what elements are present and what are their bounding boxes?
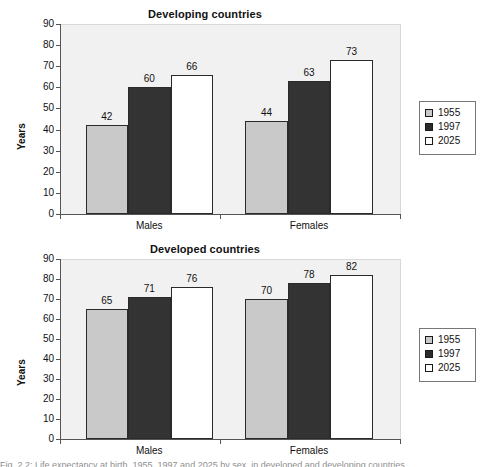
legend-row-1955: 1955: [425, 106, 469, 120]
bar-value-label: 70: [252, 286, 282, 296]
y-tick-mark: [56, 299, 60, 300]
legend-swatch-icon-2025: [425, 137, 433, 145]
bar-value-label: 71: [134, 284, 164, 294]
bar-females-1955: [245, 299, 288, 439]
legend-label: 1955: [438, 108, 460, 118]
y-tick-label: 40: [32, 355, 54, 363]
legend-label: 2025: [438, 136, 460, 146]
legend-row-2025: 2025: [425, 134, 469, 148]
bar-value-label: 60: [134, 74, 164, 84]
legend-row-1955: 1955: [425, 333, 469, 347]
legend-row-1997: 1997: [425, 347, 469, 361]
bar-males-2025: [171, 75, 214, 214]
bar-females-2025: [330, 60, 373, 214]
y-tick-label: 60: [32, 83, 54, 91]
bar-females-2025: [330, 275, 373, 439]
legend-label: 1997: [438, 122, 460, 132]
chart-title-developing: Developing countries: [0, 8, 410, 20]
y-tick-label: 0: [32, 210, 54, 218]
y-tick-mark: [56, 419, 60, 420]
y-tick-mark: [56, 399, 60, 400]
y-tick-mark: [56, 108, 60, 109]
bar-males-2025: [171, 287, 214, 439]
y-tick-label: 30: [32, 375, 54, 383]
y-tick-label: 70: [32, 62, 54, 70]
legend-label: 2025: [438, 363, 460, 373]
x-axis-tick: [400, 215, 401, 219]
chart-developed-countries: Developed countries Years 90807060504030…: [0, 238, 482, 460]
y-axis-label-developing: Years: [16, 123, 27, 150]
legend-row-1997: 1997: [425, 120, 469, 134]
y-tick-mark: [56, 87, 60, 88]
y-tick-label: 50: [32, 104, 54, 112]
y-tick-mark: [56, 130, 60, 131]
bar-females-1955: [245, 121, 288, 214]
y-tick-mark: [56, 339, 60, 340]
legend-swatch-icon-1997: [425, 123, 433, 131]
y-tick-label: 20: [32, 168, 54, 176]
y-tick-label: 90: [32, 20, 54, 28]
y-tick-label: 40: [32, 126, 54, 134]
legend-swatch-icon-2025: [425, 364, 433, 372]
bar-value-label: 73: [337, 47, 367, 57]
legend-row-2025: 2025: [425, 361, 469, 375]
bar-males-1997: [128, 297, 171, 439]
y-tick-mark: [56, 259, 60, 260]
y-tick-mark: [56, 319, 60, 320]
bar-males-1955: [86, 125, 129, 214]
y-axis-label-developed: Years: [16, 359, 27, 386]
legend-label: 1997: [438, 349, 460, 359]
y-tick-label: 60: [32, 315, 54, 323]
x-axis-tick: [220, 440, 221, 444]
y-tick-label: 50: [32, 335, 54, 343]
legend-developed: 195519972025: [419, 328, 476, 382]
y-tick-label: 70: [32, 295, 54, 303]
chart-developing-countries: Developing countries Years 9080706050403…: [0, 0, 482, 238]
bar-value-label: 76: [177, 274, 207, 284]
x-axis-tick: [60, 440, 61, 444]
x-category-label-males: Males: [104, 220, 194, 231]
y-tick-label: 0: [32, 435, 54, 443]
x-axis-tick: [400, 440, 401, 444]
y-tick-mark: [56, 279, 60, 280]
legend-swatch-icon-1955: [425, 109, 433, 117]
bar-value-label: 63: [294, 68, 324, 78]
y-tick-mark: [56, 66, 60, 67]
chart-title-developed: Developed countries: [0, 243, 410, 255]
legend-swatch-icon-1997: [425, 350, 433, 358]
y-tick-mark: [56, 151, 60, 152]
x-category-label-females: Females: [264, 220, 354, 231]
y-tick-mark: [56, 172, 60, 173]
y-tick-mark: [56, 359, 60, 360]
bar-value-label: 82: [337, 262, 367, 272]
bar-males-1997: [128, 87, 171, 214]
y-tick-mark: [56, 45, 60, 46]
y-tick-label: 10: [32, 189, 54, 197]
y-tick-label: 80: [32, 275, 54, 283]
bar-females-1997: [288, 81, 331, 214]
bar-value-label: 66: [177, 62, 207, 72]
y-tick-mark: [56, 24, 60, 25]
y-tick-label: 20: [32, 395, 54, 403]
legend-developing: 195519972025: [419, 101, 476, 155]
x-axis-tick: [220, 215, 221, 219]
bar-value-label: 42: [92, 112, 122, 122]
y-tick-mark: [56, 379, 60, 380]
legend-label: 1955: [438, 335, 460, 345]
bar-males-1955: [86, 309, 129, 439]
y-tick-mark: [56, 193, 60, 194]
y-tick-label: 80: [32, 41, 54, 49]
y-tick-label: 10: [32, 415, 54, 423]
bar-females-1997: [288, 283, 331, 439]
x-category-label-males: Males: [104, 445, 194, 456]
figure-caption: Fig. 2.2: Life expectancy at birth, 1955…: [0, 460, 482, 467]
y-tick-label: 90: [32, 255, 54, 263]
bar-value-label: 78: [294, 270, 324, 280]
x-axis-tick: [60, 215, 61, 219]
bar-value-label: 65: [92, 296, 122, 306]
bar-value-label: 44: [252, 108, 282, 118]
legend-swatch-icon-1955: [425, 336, 433, 344]
x-category-label-females: Females: [264, 445, 354, 456]
y-tick-label: 30: [32, 147, 54, 155]
